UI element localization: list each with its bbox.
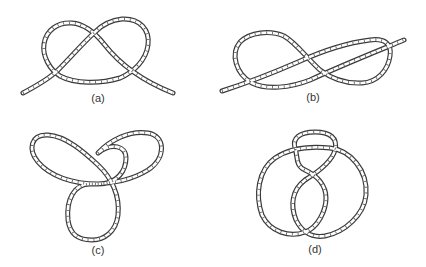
knot-diagram: (a) (b) (c) (d): [0, 0, 426, 267]
knot-d: [258, 132, 366, 236]
panel-label-a: (a): [91, 92, 104, 104]
knot-b: [222, 33, 404, 91]
panel-label-b: (b): [306, 91, 319, 103]
knot-drawings: [0, 0, 426, 267]
knot-a: [23, 19, 173, 93]
knot-c: [32, 132, 161, 240]
panel-label-d: (d): [308, 243, 321, 255]
panel-label-c: (c): [92, 244, 105, 256]
